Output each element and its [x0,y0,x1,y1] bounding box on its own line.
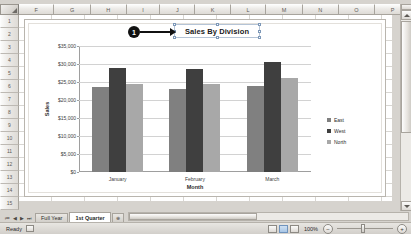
horizontal-scrollbar[interactable] [128,212,409,221]
y-axis-tick-label: $10,000 [58,133,76,139]
bar-east-march[interactable] [247,86,264,172]
resize-handle-bottom-middle[interactable] [216,36,219,39]
row-header-2[interactable]: 2 [0,28,19,41]
bar-east-january[interactable] [92,87,109,172]
page-break-view-button[interactable] [290,225,299,233]
callout-arrow-line [140,31,170,33]
y-axis-tick-label: $20,000 [58,97,76,103]
sheet-nav-button-2[interactable]: ▶ [19,216,25,221]
legend-item-north[interactable]: North [327,139,346,145]
resize-handle-top-middle[interactable] [216,23,219,26]
sheet-nav-button-3[interactable]: ⏭ [26,216,33,221]
sheet-nav-button-0[interactable]: ⏮ [4,216,11,221]
y-axis-tick-label: $25,000 [58,79,76,85]
select-all-corner[interactable] [0,4,19,15]
bar-north-january[interactable] [126,84,143,172]
row-header-7[interactable]: 7 [0,93,19,106]
plot-area[interactable]: $0$5,000$10,000$15,000$20,000$25,000$30,… [79,46,311,172]
x-axis-tick-label: March [234,176,311,182]
chart-title[interactable]: Sales By Division [174,24,260,38]
legend-label: West [334,128,345,134]
row-header-9[interactable]: 9 [0,119,19,132]
zoom-slider-track[interactable] [337,228,393,229]
scroll-up-button[interactable] [401,10,411,20]
row-header-15[interactable]: 15 [0,197,19,210]
row-header-1[interactable]: 1 [0,15,19,28]
callout-badge: 1 [128,26,140,38]
column-header-i[interactable]: I [127,4,161,15]
column-header-g[interactable]: G [54,4,90,15]
y-axis-title: Sales [44,102,50,116]
column-header-m[interactable]: M [266,4,303,15]
row-header-6[interactable]: 6 [0,80,19,93]
row-header-4[interactable]: 4 [0,54,19,67]
vertical-scrollbar[interactable] [400,4,411,211]
bar-groups: JanuaryFebruaryMarch [79,46,311,172]
row-header-12[interactable]: 12 [0,158,19,171]
row-header-5[interactable]: 5 [0,67,19,80]
excel-window: FGHIJKLMNOP 123456789101112131415 Sales … [0,0,411,234]
bar-north-february[interactable] [203,84,220,172]
column-header-o[interactable]: O [339,4,375,15]
status-bar: Ready 100% − + [0,222,411,234]
row-header-3[interactable]: 3 [0,41,19,54]
legend-swatch-north [327,140,331,144]
bar-east-february[interactable] [169,89,186,172]
row-header-column: 123456789101112131415 [0,15,19,210]
callout-arrow-head [170,28,176,36]
resize-handle-top-right[interactable] [258,23,261,26]
sheet-tabs: Full Year1st Quarter [35,212,112,222]
bar-north-march[interactable] [281,78,298,172]
zoom-slider-thumb[interactable] [361,224,365,233]
column-header-f[interactable]: F [19,4,54,15]
new-sheet-button[interactable]: ⊕ [112,213,124,222]
vertical-scroll-thumb[interactable] [401,21,411,133]
bar-west-february[interactable] [186,69,203,172]
macro-record-icon[interactable] [26,225,34,232]
legend-item-east[interactable]: East [327,117,346,123]
column-header-n[interactable]: N [303,4,339,15]
status-text: Ready [0,226,26,232]
bar-west-march[interactable] [264,62,281,172]
chart-title-text: Sales By Division [185,27,249,36]
column-header-h[interactable]: H [91,4,127,15]
x-axis-title: Month [79,184,311,190]
resize-handle-middle-right[interactable] [258,30,261,33]
y-axis-tick-label: $15,000 [58,115,76,121]
zoom-out-button[interactable]: − [323,224,333,234]
chart-legend[interactable]: EastWestNorth [327,117,346,145]
y-axis-tick-mark [77,172,79,173]
x-axis-tick-label: January [79,176,156,182]
column-header-row: FGHIJKLMNOP [0,4,411,15]
sheet-nav-button-1[interactable]: ◀ [12,216,18,221]
row-header-11[interactable]: 11 [0,145,19,158]
horizontal-scroll-thumb[interactable] [129,213,257,220]
scroll-down-button[interactable] [401,201,411,211]
bar-west-january[interactable] [109,68,126,172]
normal-view-button[interactable] [268,225,277,233]
y-axis-tick-label: $35,000 [58,43,76,49]
x-axis-tick-label: February [156,176,233,182]
sheet-tab-1st-quarter[interactable]: 1st Quarter [69,212,110,222]
y-axis-tick-label: $0 [70,169,76,175]
column-header-l[interactable]: L [231,4,266,15]
column-header-j[interactable]: J [160,4,195,15]
bar-group-march: March [234,46,311,172]
chart-object[interactable]: Sales By Division Sales $0$5,000$10,000$… [24,19,386,197]
page-layout-view-button[interactable] [279,225,288,233]
row-header-14[interactable]: 14 [0,184,19,197]
resize-handle-bottom-right[interactable] [258,36,261,39]
column-header-k[interactable]: K [195,4,231,15]
zoom-in-button[interactable]: + [397,224,407,234]
legend-item-west[interactable]: West [327,128,346,134]
arrow-up-icon [404,14,410,17]
row-header-10[interactable]: 10 [0,132,19,145]
callout-annotation-1: 1 [128,26,176,38]
row-header-8[interactable]: 8 [0,106,19,119]
status-bar-right: 100% − + [268,224,411,234]
sheet-tab-full-year[interactable]: Full Year [35,213,68,222]
y-axis-tick-label: $5,000 [61,151,76,157]
legend-swatch-east [327,118,331,122]
legend-swatch-west [327,129,331,133]
row-header-13[interactable]: 13 [0,171,19,184]
